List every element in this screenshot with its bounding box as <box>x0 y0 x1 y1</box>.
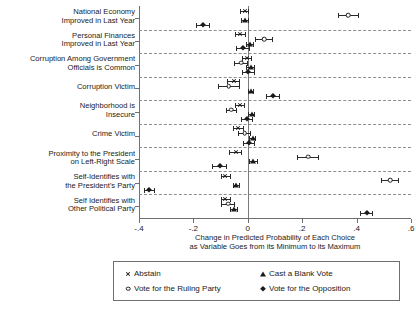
opposition-marker-icon <box>200 22 206 28</box>
ci-cap <box>221 174 222 179</box>
abstain-marker-icon <box>237 102 242 107</box>
legend-item[interactable]: Vote for the Ruling Party <box>122 283 257 295</box>
x-axis-tick-label: -.2 <box>189 224 198 233</box>
chart-figure: National Economy Improved in Last YearPe… <box>0 0 416 309</box>
category-separator <box>139 171 411 172</box>
y-axis-label: Corruption Among Government Officials is… <box>30 55 135 72</box>
opposition-marker-icon <box>245 69 251 75</box>
x-axis-tick <box>357 219 358 223</box>
category-separator <box>139 124 411 125</box>
ruling-party-marker-icon <box>306 154 311 159</box>
x-axis-tick-label: -.4 <box>134 224 143 233</box>
plot-area <box>139 6 411 218</box>
ci-cap <box>297 155 298 160</box>
ruling-party-marker-icon <box>262 37 267 42</box>
blank-vote-marker-icon <box>248 88 254 93</box>
legend-item[interactable]: Cast a Blank Vote <box>257 268 392 280</box>
abstain-marker-icon <box>126 271 131 276</box>
ci-cap <box>236 108 237 113</box>
ci-cap <box>154 188 155 193</box>
legend-row: Vote for the Ruling PartyVote for the Op… <box>122 281 392 296</box>
abstain-marker-icon <box>233 150 238 155</box>
ruling-party-marker-icon <box>229 107 234 112</box>
ci-cap <box>144 188 145 193</box>
ci-cap <box>230 174 231 179</box>
opposition-marker-icon <box>216 163 222 169</box>
y-axis-label: Neighborhood is Insecure <box>80 102 135 119</box>
opposition-marker-icon <box>246 140 252 146</box>
ci-cap <box>254 141 255 146</box>
ci-cap <box>226 164 227 169</box>
ruling-party-marker-icon <box>239 60 244 65</box>
ci-cap <box>241 150 242 155</box>
ci-cap <box>209 23 210 28</box>
ci-cap <box>254 70 255 75</box>
ruling-party-marker-icon <box>346 13 351 18</box>
ci-cap <box>234 61 235 66</box>
ci-cap <box>257 159 258 164</box>
x-axis-title: Change in Predicted Probability of Each … <box>139 233 411 251</box>
ci-cap <box>248 18 249 23</box>
ci-cap <box>218 84 219 89</box>
x-axis-tick-label: .2 <box>299 224 306 233</box>
abstain-marker-icon <box>231 79 236 84</box>
ci-cap <box>338 13 339 18</box>
x-axis-tick-label: .6 <box>408 224 415 233</box>
abstain-marker-icon <box>242 8 247 13</box>
category-separator <box>139 30 411 31</box>
y-axis-label: Personal Finances Improved in Last Year <box>62 32 135 49</box>
legend-grid: AbstainCast a Blank VoteVote for the Rul… <box>122 266 392 296</box>
ci-cap <box>266 94 267 99</box>
legend-label: Vote for the Ruling Party <box>134 284 221 293</box>
abstain-marker-icon <box>238 32 243 37</box>
abstain-marker-icon <box>223 173 228 178</box>
ci-cap <box>358 13 359 18</box>
ci-cap <box>241 117 242 122</box>
y-axis-label: Crime Victim <box>92 130 135 139</box>
category-separator <box>139 53 411 54</box>
x-axis-tick <box>302 219 303 223</box>
ci-cap <box>243 141 244 146</box>
ci-cap <box>372 211 373 216</box>
x-axis-tick <box>193 219 194 223</box>
ruling-party-marker-icon <box>226 202 231 207</box>
opposition-marker-icon <box>260 285 266 291</box>
ci-cap <box>249 46 250 51</box>
y-axis-label: Proximity to the President on Left-Right… <box>48 150 135 167</box>
ci-cap <box>279 94 280 99</box>
legend-item[interactable]: Abstain <box>122 268 257 280</box>
ci-cap <box>381 178 382 183</box>
blank-vote-marker-icon <box>233 183 239 188</box>
ci-cap <box>398 178 399 183</box>
chart-legend: AbstainCast a Blank VoteVote for the Rul… <box>113 261 400 301</box>
ci-cap <box>212 164 213 169</box>
ci-cap <box>196 23 197 28</box>
x-axis-tick-label: .4 <box>353 224 360 233</box>
ci-cap <box>245 32 246 37</box>
ruling-party-marker-icon <box>226 84 231 89</box>
ci-cap <box>318 155 319 160</box>
blank-vote-marker-icon <box>231 206 237 211</box>
legend-label: Vote for the Opposition <box>269 284 350 293</box>
legend-label: Cast a Blank Vote <box>269 269 333 278</box>
category-separator <box>139 77 411 78</box>
ci-cap <box>229 150 230 155</box>
legend-label: Abstain <box>134 269 161 278</box>
blank-vote-marker-icon <box>242 18 248 23</box>
ci-cap <box>226 108 227 113</box>
blank-vote-marker-icon <box>247 41 253 46</box>
category-separator <box>139 194 411 195</box>
y-axis-label: Self Identifies with Other Political Par… <box>68 197 135 214</box>
ci-cap <box>248 9 249 14</box>
ci-cap <box>272 37 273 42</box>
x-axis-tick-label: 0 <box>246 224 250 233</box>
y-axis-label: Self-Identifies with the President's Par… <box>65 173 135 190</box>
legend-symbol <box>122 283 134 295</box>
ci-cap <box>236 46 237 51</box>
ruling-party-marker-icon <box>388 178 393 183</box>
legend-symbol <box>257 283 269 295</box>
ci-cap <box>238 131 239 136</box>
legend-item[interactable]: Vote for the Opposition <box>257 283 392 295</box>
legend-symbol <box>122 268 134 280</box>
opposition-marker-icon <box>244 116 250 122</box>
